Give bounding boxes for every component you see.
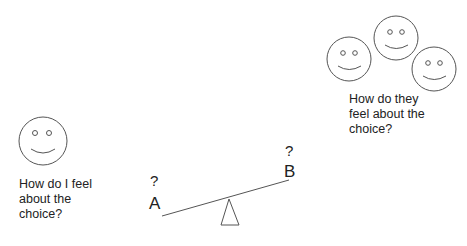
others-question-line-1: How do they bbox=[349, 92, 425, 107]
others-smiley-icon-left bbox=[327, 37, 371, 81]
seesaw-icon bbox=[162, 180, 289, 225]
self-question-line-3: choice? bbox=[19, 207, 92, 222]
self-question: How do I feel about the choice? bbox=[19, 177, 92, 222]
option-a-label: A bbox=[149, 195, 160, 213]
others-smiley-icon-right bbox=[412, 47, 456, 91]
others-question-line-2: feel about the bbox=[349, 107, 425, 122]
self-question-line-2: about the bbox=[19, 192, 92, 207]
option-b-question-mark: ? bbox=[285, 143, 293, 159]
self-smiley-icon bbox=[19, 117, 67, 165]
others-smiley-icon-middle bbox=[374, 16, 418, 60]
self-question-line-1: How do I feel bbox=[19, 177, 92, 192]
others-question: How do they feel about the choice? bbox=[349, 92, 425, 137]
option-b-label: B bbox=[284, 163, 295, 181]
option-a-question-mark: ? bbox=[150, 173, 158, 189]
others-question-line-3: choice? bbox=[349, 122, 425, 137]
